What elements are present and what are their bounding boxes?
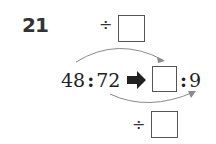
top-arc [76, 48, 163, 62]
left-ratio-second-term: 72 [96, 69, 120, 91]
bottom-divide-symbol: ÷ [132, 117, 145, 133]
problem-number: 21 [22, 13, 48, 37]
left-ratio-colon: : [85, 69, 96, 91]
left-ratio: 48:72 [61, 71, 120, 90]
left-ratio-first-term: 48 [61, 69, 85, 91]
top-divide-symbol: ÷ [99, 17, 112, 33]
top-arrowhead-icon [157, 57, 165, 63]
right-ratio-second-term: 9 [189, 69, 201, 91]
bottom-arc [110, 92, 194, 103]
right-arrow-icon [127, 71, 146, 89]
right-ratio-colon: : [180, 69, 189, 91]
bottom-divisor-answer-box[interactable] [151, 111, 178, 138]
right-ratio-tail: :9 [180, 71, 201, 90]
top-divisor-answer-box[interactable] [118, 15, 145, 42]
right-ratio-first-term-answer-box[interactable] [152, 66, 177, 92]
